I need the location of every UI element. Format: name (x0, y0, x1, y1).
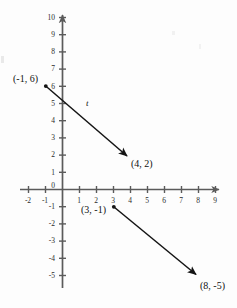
y-tick-label: 6 (39, 83, 55, 91)
y-tick-label: 5 (39, 100, 55, 108)
segment-label-t: t (86, 99, 89, 108)
y-axis (59, 15, 66, 288)
x-tick-label: 9 (207, 197, 223, 205)
x-tick-label: 3 (105, 197, 121, 205)
y-tick-label: 7 (39, 65, 55, 73)
point-label-end-a: (4, 2) (131, 159, 153, 169)
y-tick-label: 2 (39, 151, 55, 159)
coordinate-plane-figure: -2 -1 1 2 3 4 5 6 7 8 9 10 9 8 7 6 5 4 3… (0, 0, 237, 308)
x-tick-label: -2 (20, 197, 36, 205)
x-tick-label: 4 (122, 197, 138, 205)
plot-svg (0, 0, 237, 308)
y-tick-label: 3 (39, 134, 55, 142)
point-label-end-b: (8, -5) (200, 281, 225, 291)
vector-t (44, 84, 127, 156)
x-tick-label: 7 (173, 197, 189, 205)
y-tick-label: 10 (39, 14, 55, 22)
y-tick-label-origin: 0 (39, 182, 55, 190)
y-tick-label: 4 (39, 117, 55, 125)
y-tick-label: -4 (39, 255, 55, 263)
y-tick-label: -3 (39, 237, 55, 245)
x-tick-label: 8 (190, 197, 206, 205)
vector-second (112, 205, 196, 275)
point-label-start-a: (-1, 6) (13, 74, 38, 84)
y-tick-label: -2 (39, 220, 55, 228)
point-label-start-b: (3, -1) (81, 205, 106, 215)
y-tick-label: 8 (39, 48, 55, 56)
y-tick-label: -1 (39, 203, 55, 211)
x-tick-label: 6 (156, 197, 172, 205)
y-tick-label: 1 (39, 169, 55, 177)
y-tick-label: -5 (39, 272, 55, 280)
y-tick-label: 9 (39, 31, 55, 39)
x-tick-label: 5 (139, 197, 155, 205)
